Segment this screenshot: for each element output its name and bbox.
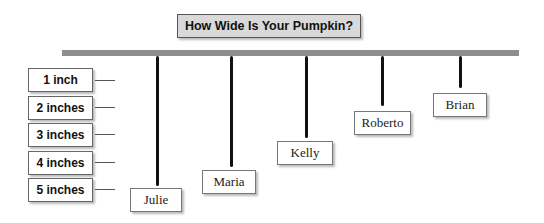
hanging-bar <box>62 50 519 56</box>
string-julie <box>156 56 159 186</box>
name-brian: Brian <box>433 93 487 117</box>
string-brian <box>459 56 462 88</box>
scale-label-1: 1 inch <box>28 68 93 92</box>
name-kelly: Kelly <box>277 141 333 165</box>
scale-label-5: 5 inches <box>28 178 93 202</box>
scale-tick-4 <box>95 162 115 163</box>
diagram-title: How Wide Is Your Pumpkin? <box>177 14 361 38</box>
scale-tick-2 <box>95 107 115 108</box>
scale-label-3: 3 inches <box>28 123 93 147</box>
string-maria <box>230 56 233 167</box>
name-maria: Maria <box>202 170 256 194</box>
scale-tick-5 <box>95 189 115 190</box>
name-julie: Julie <box>130 188 182 212</box>
string-roberto <box>381 56 384 106</box>
string-kelly <box>305 56 308 138</box>
scale-tick-1 <box>95 80 115 81</box>
scale-label-4: 4 inches <box>28 151 93 175</box>
scale-label-2: 2 inches <box>28 96 93 120</box>
name-roberto: Roberto <box>354 111 411 135</box>
scale-tick-3 <box>95 134 115 135</box>
